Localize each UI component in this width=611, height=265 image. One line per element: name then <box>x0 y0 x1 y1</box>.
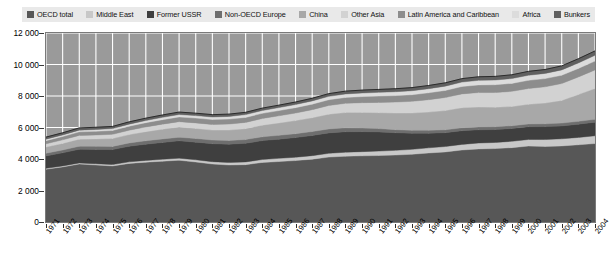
legend-item[interactable]: China <box>299 11 328 18</box>
legend-swatch-icon <box>215 11 222 18</box>
legend-swatch-icon <box>86 11 93 18</box>
y-axis: 02 0004 0006 0008 00010 00012 000 <box>0 32 43 224</box>
legend-swatch-icon <box>512 11 519 18</box>
legend-item[interactable]: Africa <box>512 11 540 18</box>
y-axis-tick-mark <box>39 191 44 192</box>
legend-label: Middle East <box>96 11 133 18</box>
legend-label: Africa <box>522 11 540 18</box>
legend-swatch-icon <box>147 11 154 18</box>
y-axis-tick-mark <box>39 159 44 160</box>
legend-swatch-icon <box>27 11 34 18</box>
chart-title-clipped <box>0 0 608 7</box>
legend-label: OECD total <box>37 11 73 18</box>
legend-item[interactable]: Bunkers <box>554 11 590 18</box>
legend-item[interactable]: Middle East <box>86 11 133 18</box>
legend-item[interactable]: Latin America and Caribbean <box>398 11 499 18</box>
y-axis-tick-label: 8 000 <box>18 91 39 101</box>
y-axis-tick-mark <box>39 222 44 223</box>
stacked-area-svg <box>46 33 595 222</box>
legend-label: Bunkers <box>564 11 590 18</box>
legend-item[interactable]: Other Asia <box>341 11 384 18</box>
legend-swatch-icon <box>398 11 405 18</box>
y-axis-tick-label: 6 000 <box>18 123 39 133</box>
legend-label: Other Asia <box>351 11 384 18</box>
y-axis-tick-mark <box>39 96 44 97</box>
legend-label: Former USSR <box>157 11 202 18</box>
y-axis-tick-label: 4 000 <box>18 154 39 164</box>
y-axis-tick-mark <box>39 128 44 129</box>
y-axis-tick-label: 2 000 <box>18 186 39 196</box>
legend-swatch-icon <box>554 11 561 18</box>
y-axis-tick-mark <box>39 33 44 34</box>
legend-label: Latin America and Caribbean <box>408 11 499 18</box>
legend-item[interactable]: Former USSR <box>147 11 202 18</box>
legend-swatch-icon <box>299 11 306 18</box>
legend-swatch-icon <box>341 11 348 18</box>
y-axis-tick-label: 12 000 <box>13 28 39 38</box>
x-axis: 1971197219731974197519761977197819791980… <box>45 224 597 265</box>
chart-legend: OECD totalMiddle EastFormer USSRNon-OECD… <box>22 7 595 22</box>
y-axis-tick-mark <box>39 65 44 66</box>
plot-area <box>45 32 596 223</box>
legend-label: China <box>309 11 328 18</box>
y-axis-tick-label: 10 000 <box>13 60 39 70</box>
legend-item[interactable]: Non-OECD Europe <box>215 11 286 18</box>
legend-label: Non-OECD Europe <box>225 11 286 18</box>
legend-item[interactable]: OECD total <box>27 11 73 18</box>
